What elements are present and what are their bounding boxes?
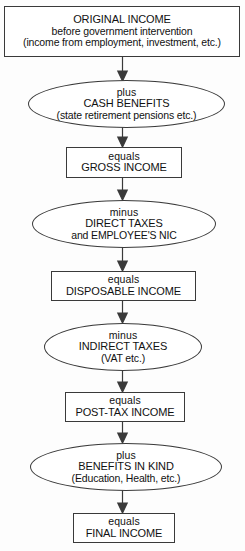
node-cash-benefits: plus CASH BENEFITS (state retirement pen… [28, 80, 225, 128]
node-post-tax-income: equals POST-TAX INCOME [65, 392, 185, 422]
node-original-income-line3: (income from employment, investment, etc… [23, 37, 221, 48]
node-post-tax-income-heading: POST-TAX INCOME [75, 407, 174, 419]
node-disposable-income: equals DISPOSABLE INCOME [51, 271, 196, 301]
node-original-income: ORIGINAL INCOME before government interv… [4, 6, 240, 57]
node-final-income-heading: FINAL INCOME [86, 528, 163, 540]
node-indirect-taxes: minus INDIRECT TAXES (VAT etc.) [44, 323, 202, 371]
node-benefits-in-kind: plus BENEFITS IN KIND (Education, Health… [30, 443, 222, 491]
node-benefits-in-kind-line2: (Education, Health, etc.) [72, 473, 181, 484]
node-indirect-taxes-line2: (VAT etc.) [101, 353, 145, 364]
node-gross-income: equals GROSS INCOME [66, 147, 182, 178]
node-disposable-income-heading: DISPOSABLE INCOME [66, 286, 181, 298]
income-redistribution-flowchart: ORIGINAL INCOME before government interv… [0, 0, 245, 551]
node-gross-income-heading: GROSS INCOME [81, 162, 167, 174]
node-final-income: equals FINAL INCOME [73, 513, 175, 543]
node-cash-benefits-line2: (state retirement pensions etc.) [57, 110, 197, 121]
node-direct-taxes: minus DIRECT TAXES and EMPLOYEE'S NIC [32, 200, 216, 248]
node-direct-taxes-line2: and EMPLOYEE'S NIC [71, 230, 177, 241]
